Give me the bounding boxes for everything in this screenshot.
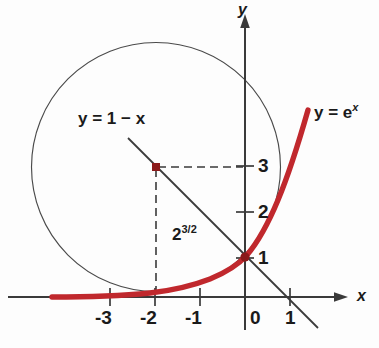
x-tick-label-neg3: -3 [95,308,112,327]
x-tick-label-pos1: 1 [285,308,296,327]
exponential-curve [52,110,308,297]
y-tick-label-1: 1 [258,248,269,267]
x-tick-label-neg1: -1 [185,308,202,327]
radius-length-label: 23/2 [172,224,197,243]
x-axis-label: x [357,288,366,304]
radius-exponent: 3/2 [181,223,196,235]
circle-center-point [152,163,160,171]
curve-equation-text: y = e [314,103,352,122]
tangency-point [240,252,249,261]
curve-equation-label: y = ex [314,102,358,121]
figure-canvas: y x -3 -2 -1 1 0 1 2 3 y = 1 − x y = ex … [0,0,379,348]
y-tick-label-3: 3 [258,156,269,175]
y-axis-label: y [238,2,247,18]
x-tick-label-neg2: -2 [140,308,157,327]
curve-equation-exponent: x [352,101,358,113]
math-plot [0,0,379,348]
y-tick-label-2: 2 [258,202,269,221]
x-axis-arrow [334,292,348,302]
origin-label: 0 [250,308,261,327]
line-equation-label: y = 1 − x [78,110,145,127]
